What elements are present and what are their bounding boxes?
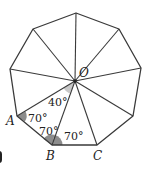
nonagon-diagram: O A B C 40° 70° 70° 70° <box>0 0 148 173</box>
label-c: C <box>93 149 102 163</box>
angle-label-aob: 40° <box>48 96 68 109</box>
center-point-o <box>73 79 77 83</box>
angle-label-obc: 70° <box>64 130 84 143</box>
label-a: A <box>5 114 15 128</box>
label-b: B <box>45 149 55 163</box>
label-o: O <box>79 66 89 80</box>
angle-label-oab: 70° <box>28 112 48 125</box>
angle-label-oba: 70° <box>39 125 59 138</box>
